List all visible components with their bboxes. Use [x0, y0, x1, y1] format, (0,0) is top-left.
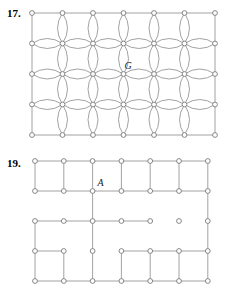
- grid-vertex: [119, 159, 124, 164]
- grid-vertex: [177, 249, 182, 254]
- lattice-vertex: [60, 11, 65, 16]
- lattice-vertex: [182, 72, 187, 77]
- lattice-vertex: [60, 133, 65, 138]
- lattice-lens-edge: [154, 13, 159, 44]
- lattice-lens-edge: [185, 13, 190, 44]
- grid-vertex: [119, 219, 124, 224]
- lattice-lens-edge: [58, 44, 63, 75]
- lattice-lens-edge: [63, 100, 94, 105]
- lattice-lens-edge: [93, 74, 124, 79]
- lattice-lens-edge: [180, 44, 185, 75]
- grid-vertex: [61, 159, 66, 164]
- lattice-lens-edge: [185, 100, 216, 105]
- lattice-lens-edge: [149, 13, 154, 44]
- vertex-label-a: A: [97, 177, 105, 188]
- grid-vertex: [61, 189, 66, 194]
- grid-vertex: [61, 249, 66, 254]
- lattice-lens-edge: [180, 13, 185, 44]
- lattice-lens-edge: [63, 74, 68, 105]
- lattice-lens-edge: [93, 44, 98, 75]
- grid-vertex: [33, 219, 38, 224]
- lattice-vertex: [30, 11, 35, 16]
- lattice-lens-edge: [63, 44, 68, 75]
- lattice-vertex: [182, 133, 187, 138]
- figure-17-container: 17. G: [0, 0, 241, 150]
- grid-vertex: [205, 159, 210, 164]
- lattice-lens-edge: [32, 105, 63, 110]
- grid-vertex: [148, 279, 153, 284]
- lattice-lens-edge: [124, 13, 129, 44]
- figure-19-diagram: A: [0, 145, 241, 301]
- lattice-vertex: [213, 11, 218, 16]
- lattice-vertex: [213, 133, 218, 138]
- lattice-lens-edge: [124, 74, 129, 105]
- lattice-lens-edge: [32, 100, 63, 105]
- lattice-lens-edge: [93, 44, 124, 49]
- lattice-vertex: [121, 11, 126, 16]
- lattice-lens-edge: [93, 74, 98, 105]
- lattice-lens-edge: [32, 69, 63, 74]
- lattice-lens-edge: [119, 13, 124, 44]
- lattice-vertex: [30, 72, 35, 77]
- lattice-lens-edge: [124, 74, 155, 79]
- grid-vertex: [61, 279, 66, 284]
- lattice-lens-edge: [124, 100, 155, 105]
- lattice-vertex: [30, 102, 35, 107]
- figure-17-diagram: G: [0, 0, 241, 150]
- grid-vertex: [148, 189, 153, 194]
- lattice-vertex: [213, 41, 218, 46]
- lattice-lens-edge: [93, 105, 124, 110]
- grid-vertex: [119, 279, 124, 284]
- lattice-lens-edge: [63, 39, 94, 44]
- lattice-lens-edge: [154, 105, 185, 110]
- lattice-lens-edge: [88, 105, 93, 136]
- lattice-vertex: [152, 11, 157, 16]
- lattice-lens-edge: [185, 74, 216, 79]
- lattice-lens-edge: [124, 44, 155, 49]
- lattice-vertex: [121, 102, 126, 107]
- lattice-lens-edge: [185, 44, 216, 49]
- lattice-lens-edge: [154, 69, 185, 74]
- grid-vertex: [90, 219, 95, 224]
- lattice-lens-edge: [58, 74, 63, 105]
- lattice-vertex: [182, 41, 187, 46]
- lattice-lens-edge: [154, 44, 185, 49]
- lattice-lens-edge: [149, 44, 154, 75]
- lattice-vertex: [152, 72, 157, 77]
- grid-vertex: [177, 189, 182, 194]
- lattice-vertex: [152, 133, 157, 138]
- lattice-lens-edge: [154, 100, 185, 105]
- grid-vertex: [148, 159, 153, 164]
- lattice-lens-edge: [180, 74, 185, 105]
- lattice-vertex: [30, 133, 35, 138]
- lattice-lens-edge: [63, 74, 94, 79]
- vertex-label-g: G: [125, 60, 132, 71]
- lattice-lens-edge: [154, 105, 159, 136]
- lattice-lens-edge: [149, 105, 154, 136]
- lattice-lens-edge: [88, 74, 93, 105]
- lattice-lens-edge: [124, 39, 155, 44]
- lattice-vertex: [213, 102, 218, 107]
- lattice-lens-edge: [185, 74, 190, 105]
- lattice-lens-edge: [63, 105, 68, 136]
- lattice-vertex: [213, 72, 218, 77]
- lattice-vertex: [91, 11, 96, 16]
- lattice-lens-edge: [58, 13, 63, 44]
- lattice-vertex: [91, 133, 96, 138]
- grid-vertex: [33, 279, 38, 284]
- lattice-lens-edge: [32, 39, 63, 44]
- grid-vertex: [33, 249, 38, 254]
- lattice-lens-edge: [119, 105, 124, 136]
- lattice-lens-edge: [154, 74, 185, 79]
- grid-vertex: [33, 159, 38, 164]
- lattice-lens-edge: [93, 13, 98, 44]
- grid-vertex: [90, 279, 95, 284]
- lattice-lens-edge: [88, 13, 93, 44]
- lattice-lens-edge: [149, 74, 154, 105]
- lattice-lens-edge: [63, 69, 94, 74]
- grid-vertex: [119, 249, 124, 254]
- lattice-vertex: [152, 102, 157, 107]
- lattice-vertex: [91, 102, 96, 107]
- grid-vertex: [33, 189, 38, 194]
- lattice-lens-edge: [32, 74, 63, 79]
